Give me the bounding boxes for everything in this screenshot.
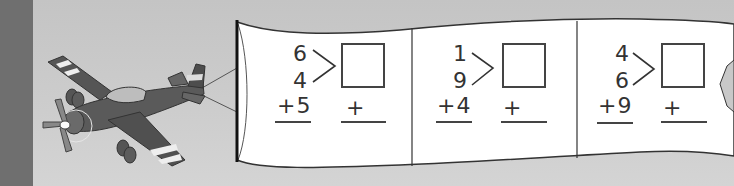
problem-1-sum-line [275,121,311,123]
problem-2-addend: +4 [437,95,471,117]
problem-3-middle-number: 6 [609,70,629,92]
problem-1-answer-plus: + [346,97,364,119]
problem-1-top-number: 6 [287,43,307,65]
problem-3-addend: +9 [598,95,632,117]
problem-2-answer-box[interactable] [502,43,546,88]
problem-1-middle-number: 4 [287,70,307,92]
problem-3-sum-line [597,122,633,124]
problem-2-answer-line[interactable] [501,121,547,123]
problem-2-top-number: 1 [447,43,467,65]
problem-1-addend: +5 [277,95,311,117]
problem-3-answer-plus: + [663,97,681,119]
airplane-icon [43,56,205,166]
problem-3-answer-box[interactable] [661,43,705,88]
problem-1-answer-line[interactable] [341,121,386,123]
problem-2-middle-number: 9 [447,70,467,92]
problem-2-sum-line [436,121,472,123]
problem-2-answer-plus: + [503,97,521,119]
problem-3-answer-line[interactable] [661,121,707,123]
problem-1-answer-box[interactable] [341,43,385,88]
problem-3-top-number: 4 [609,43,629,65]
banner [237,19,734,168]
